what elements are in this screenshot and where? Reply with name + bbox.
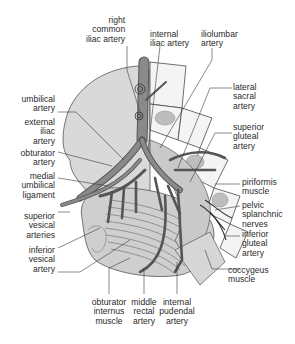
label-internal-iliac-artery: internal iliac artery (150, 30, 189, 49)
label-obturator-artery: obturator artery (0, 149, 55, 168)
label-inferior-gluteal-artery: inferior gluteal artery (242, 230, 268, 258)
label-medial-umbilical-ligament: medial umbilical ligament (0, 172, 55, 200)
label-iliolumbar-artery: iliolumbar artery (201, 30, 238, 49)
label-right-common-iliac-artery: right common iliac artery (86, 16, 125, 44)
label-external-iliac-artery: external iliac artery (0, 118, 55, 146)
label-inferior-vesical-artery: inferior vesical artery (0, 246, 55, 274)
label-lateral-sacral-artery: lateral sacral artery (233, 83, 256, 111)
label-coccygeus-muscle: coccygeus muscle (228, 266, 269, 285)
label-internal-pudendal-artery: internal pudendal artery (155, 298, 199, 326)
label-superior-gluteal-artery: superior gluteal artery (233, 123, 264, 151)
label-piriformis-muscle: piriformis muscle (242, 178, 277, 197)
label-superior-vesical-arteries: superior vesical arteries (0, 212, 55, 240)
label-pelvic-splanchnic-nerves: pelvic splanchnic nerves (242, 201, 283, 229)
label-umbilical-artery: umbilical artery (0, 95, 55, 114)
